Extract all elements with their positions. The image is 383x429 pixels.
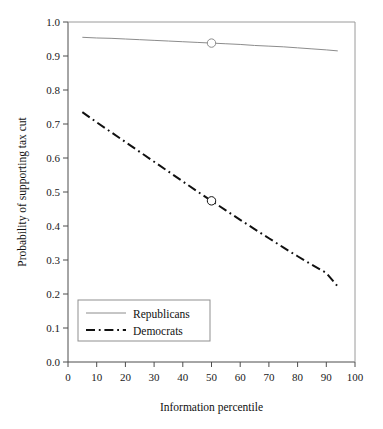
x-tick-label: 40 [177, 371, 189, 383]
data-marker-democrats [207, 197, 215, 205]
legend-label-democrats: Democrats [133, 325, 183, 337]
x-tick-label: 50 [206, 371, 218, 383]
y-tick-label: 0.9 [46, 50, 60, 62]
y-tick-label: 1.0 [46, 16, 60, 28]
y-tick-label: 0.7 [46, 118, 60, 130]
y-tick-label: 0.5 [46, 186, 60, 198]
x-tick-label: 0 [65, 371, 71, 383]
y-tick-label: 0.6 [46, 152, 60, 164]
x-tick-label: 20 [120, 371, 132, 383]
y-tick-label: 0.3 [46, 254, 60, 266]
x-axis-title: Information percentile [160, 401, 263, 414]
x-tick-label: 80 [292, 371, 304, 383]
y-tick-label: 0.8 [46, 84, 60, 96]
data-marker-republicans [207, 39, 215, 47]
y-tick-label: 0.1 [46, 322, 60, 334]
x-tick-label: 90 [321, 371, 333, 383]
x-tick-label: 10 [91, 371, 103, 383]
y-tick-label: 0.2 [46, 288, 60, 300]
x-tick-label: 100 [347, 371, 364, 383]
x-tick-label: 70 [263, 371, 275, 383]
x-tick-label: 60 [235, 371, 247, 383]
y-tick-label: 0.4 [46, 220, 60, 232]
probability-line-chart: 0.00.10.20.30.40.50.60.70.80.91.00102030… [0, 0, 383, 429]
x-tick-label: 30 [149, 371, 161, 383]
chart-container: 0.00.10.20.30.40.50.60.70.80.91.00102030… [0, 0, 383, 429]
y-axis-title: Probability of supporting tax cut [16, 116, 29, 266]
y-tick-label: 0.0 [46, 356, 60, 368]
legend-label-republicans: Republicans [133, 308, 190, 321]
